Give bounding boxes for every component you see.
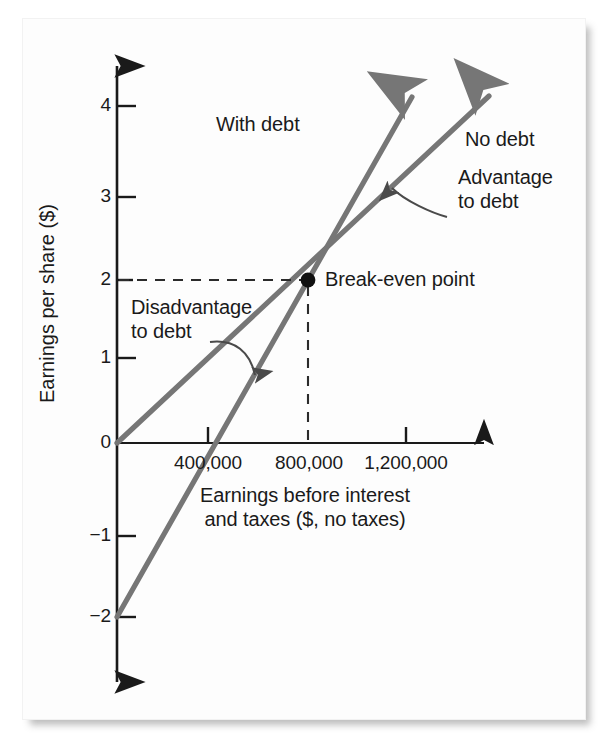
x-tick-label-1200000: 1,200,000 bbox=[341, 452, 471, 473]
x-tick-label-400000: 400,000 bbox=[151, 452, 265, 473]
y-axis-title-text: Earnings per share ($) bbox=[36, 204, 58, 403]
figure-page: 4 3 2 1 0 −1 −2 400,000 800,000 1,200,00… bbox=[0, 0, 613, 747]
chart-canvas bbox=[0, 0, 613, 747]
annotation-no-debt: No debt bbox=[465, 128, 534, 150]
y-tick-label-3: 3 bbox=[93, 185, 111, 206]
annotation-disadvantage-to-debt-line1: Disadvantage bbox=[131, 296, 252, 318]
y-tick-label-4: 4 bbox=[93, 94, 111, 115]
x-axis-title-line2: and taxes ($, no taxes) bbox=[175, 508, 435, 530]
advantage-callout-arrow bbox=[392, 188, 447, 217]
y-axis-title: Earnings per share ($) bbox=[36, 174, 59, 434]
y-tick-label-1: 1 bbox=[93, 346, 111, 367]
break-even-marker bbox=[301, 273, 316, 288]
annotation-advantage-to-debt-line1: Advantage bbox=[458, 166, 553, 188]
series-line-with-debt bbox=[117, 97, 412, 617]
annotation-break-even-point: Break-even point bbox=[325, 268, 475, 290]
x-axis bbox=[117, 427, 484, 443]
y-tick-label-minus-1: −1 bbox=[80, 524, 111, 545]
annotation-advantage-to-debt-line2: to debt bbox=[458, 190, 518, 212]
annotation-disadvantage-to-debt-line2: to debt bbox=[131, 320, 191, 342]
y-axis-ticks bbox=[117, 106, 136, 617]
x-axis-title-line1: Earnings before interest bbox=[175, 484, 435, 506]
annotation-with-debt: With debt bbox=[216, 113, 300, 135]
y-tick-label-2: 2 bbox=[93, 268, 111, 289]
y-tick-label-minus-2: −2 bbox=[80, 605, 111, 626]
y-tick-label-0: 0 bbox=[93, 431, 111, 452]
